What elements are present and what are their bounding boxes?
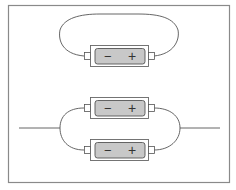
battery-body: [95, 101, 145, 117]
positive-symbol: +: [128, 100, 136, 116]
positive-symbol: +: [128, 142, 136, 158]
battery-upper: − +: [85, 98, 155, 119]
negative-terminal: [85, 105, 91, 112]
battery-circuit-diagram: − + − + − +: [0, 0, 236, 190]
positive-terminal: [149, 105, 155, 112]
battery: − +: [85, 46, 155, 67]
negative-terminal: [85, 53, 91, 60]
battery-lower: − +: [85, 140, 155, 161]
positive-symbol: +: [128, 48, 136, 64]
negative-symbol: −: [104, 49, 112, 64]
negative-symbol: −: [104, 143, 112, 158]
positive-terminal: [149, 53, 155, 60]
positive-terminal: [149, 147, 155, 154]
battery-body: [95, 143, 145, 159]
negative-terminal: [85, 147, 91, 154]
battery-body: [95, 49, 145, 65]
negative-symbol: −: [104, 101, 112, 116]
